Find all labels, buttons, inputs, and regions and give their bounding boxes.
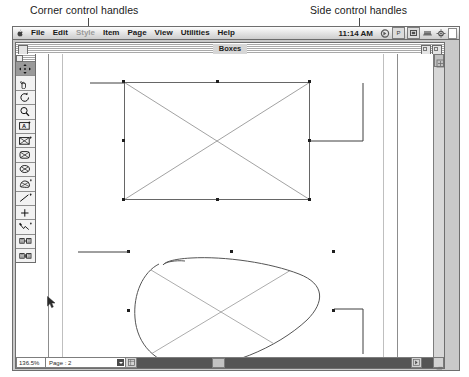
annotation-side-control-handles: Side control handles [310, 4, 407, 16]
handle-side-middle-left[interactable] [122, 139, 125, 142]
linking-tool[interactable] [16, 235, 35, 249]
document-window: Boxes [15, 42, 445, 369]
speaker-icon[interactable] [379, 28, 390, 38]
bezier-picture-box[interactable] [129, 252, 334, 357]
rounded-picture-box-tool[interactable] [16, 148, 35, 162]
page-number-field[interactable]: Page : 2 [46, 357, 126, 368]
filesharing-icon[interactable] [422, 28, 433, 38]
item-tool[interactable] [16, 62, 35, 76]
unlinking-tool[interactable] [16, 249, 35, 262]
tool-palette-close-box[interactable] [16, 55, 23, 62]
svg-text:A: A [22, 123, 26, 129]
rectangle-picture-box[interactable] [124, 82, 310, 200]
handle-side-bottom-center[interactable] [216, 198, 219, 201]
window-body: A [16, 54, 444, 368]
mouse-cursor [47, 296, 56, 309]
vertical-scrollbar-thumb[interactable] [434, 54, 444, 67]
vertical-scrollbar[interactable] [433, 54, 444, 357]
tool-palette[interactable]: A [16, 54, 36, 263]
window-close-box[interactable] [18, 45, 28, 55]
menu-item-edit[interactable]: Edit [49, 27, 72, 39]
margin-guide-left [62, 54, 63, 357]
application-switcher-icon[interactable] [435, 28, 446, 38]
handle-side-top-center[interactable] [216, 80, 219, 83]
document-canvas[interactable]: A [16, 54, 433, 357]
handle-corner-bottom-right[interactable] [308, 198, 311, 201]
zoom-tool[interactable] [16, 105, 35, 119]
handle-corner-top-right[interactable] [332, 250, 335, 253]
bezier-box-tool[interactable] [16, 177, 35, 191]
menu-item-item[interactable]: Item [99, 27, 123, 39]
handle-side-middle-right[interactable] [308, 139, 311, 142]
menu-bar-end-tab [448, 28, 457, 39]
menu-item-view[interactable]: View [151, 27, 177, 39]
rectangle-picture-box-tool[interactable] [16, 134, 35, 148]
annotation-corner-control-handles: Corner control handles [30, 4, 138, 16]
page-popup-arrow-icon[interactable] [117, 359, 124, 366]
page-thumbnail-icon[interactable] [126, 357, 137, 368]
desktop: File Edit Style Item Page View Utilities… [12, 26, 460, 371]
rotation-tool[interactable] [16, 91, 35, 105]
status-bar: 136.5% Page : 2 [16, 357, 444, 368]
handle-corner-top-left[interactable] [127, 250, 130, 253]
menu-bar: File Edit Style Item Page View Utilities… [13, 27, 459, 40]
window-collapse-box[interactable] [432, 45, 442, 55]
handle-corner-bottom-left[interactable] [122, 198, 125, 201]
bezier-line-tool[interactable] [16, 220, 35, 234]
handle-side-middle-left[interactable] [127, 309, 130, 312]
page-number-label: Page : 2 [49, 360, 71, 366]
menu-item-file[interactable]: File [27, 27, 49, 39]
handle-side-middle-right[interactable] [332, 309, 335, 312]
menu-item-help[interactable]: Help [214, 27, 239, 39]
apple-menu-icon[interactable] [13, 29, 27, 37]
handle-side-top-center[interactable] [230, 250, 233, 253]
content-tool[interactable] [16, 76, 35, 90]
window-title: Boxes [213, 44, 248, 54]
tool-palette-title-bar[interactable] [16, 54, 35, 62]
print-monitor-icon[interactable]: P [392, 27, 405, 39]
window-zoom-box[interactable] [421, 45, 431, 55]
oval-picture-box-tool[interactable] [16, 163, 35, 177]
menu-bar-status-area: 11:14 AM P [335, 27, 459, 39]
menu-item-utilities[interactable]: Utilities [177, 27, 214, 39]
menu-bar-clock[interactable]: 11:14 AM [335, 29, 377, 38]
text-box-tool[interactable]: A [16, 120, 35, 134]
margin-guide-right [383, 54, 384, 357]
network-icon[interactable] [407, 27, 420, 39]
line-tool[interactable] [16, 192, 35, 206]
handle-corner-top-left[interactable] [122, 80, 125, 83]
menu-item-page[interactable]: Page [123, 27, 150, 39]
orthogonal-line-tool[interactable] [16, 206, 35, 220]
zoom-percentage-field[interactable]: 136.5% [16, 357, 46, 368]
menu-item-style: Style [72, 27, 99, 39]
handle-corner-top-right[interactable] [308, 80, 311, 83]
